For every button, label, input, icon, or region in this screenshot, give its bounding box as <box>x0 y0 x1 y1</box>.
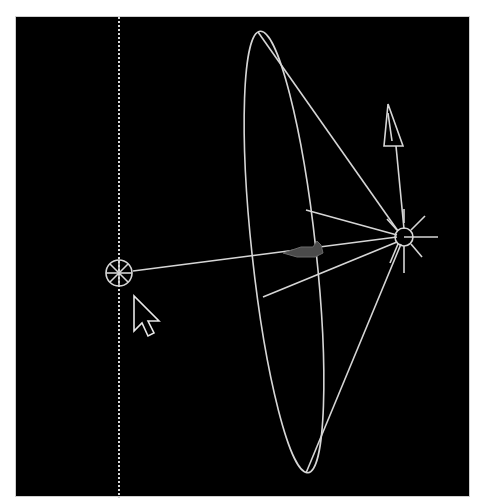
3d-viewport[interactable]: 3D viewport - spotlight <box>15 16 470 497</box>
mouse-cursor-icon <box>134 296 159 336</box>
spotlight-cone[interactable] <box>133 28 401 476</box>
direction-arrow-icon <box>283 241 323 257</box>
target-handle-icon[interactable] <box>106 260 132 286</box>
light-source-icon[interactable] <box>387 209 438 273</box>
up-vector-arrow-icon[interactable] <box>384 104 404 229</box>
